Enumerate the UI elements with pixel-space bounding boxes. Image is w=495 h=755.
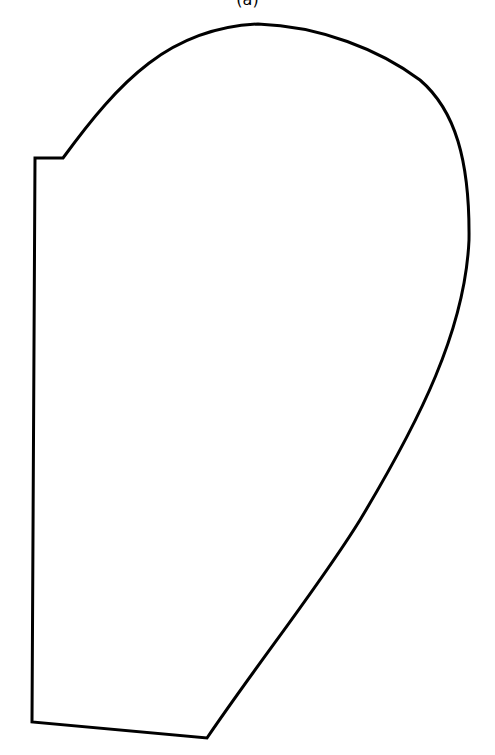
outline-shape	[32, 24, 469, 738]
diagram-canvas	[0, 0, 495, 755]
